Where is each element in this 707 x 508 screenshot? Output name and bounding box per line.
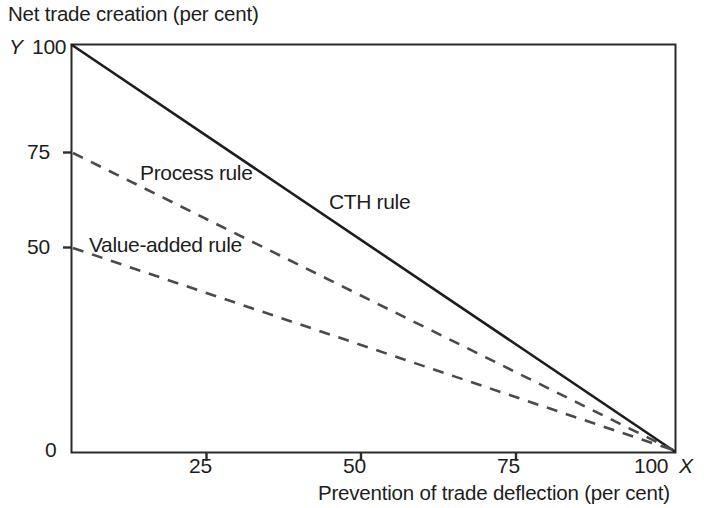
chart-figure: Net trade creation (per cent) Prevention… bbox=[0, 0, 707, 508]
plot-canvas bbox=[0, 0, 707, 508]
series-line-process-rule bbox=[73, 153, 673, 450]
series-line-value-added-rule bbox=[73, 248, 673, 450]
series-line-cth-rule bbox=[72, 45, 674, 451]
